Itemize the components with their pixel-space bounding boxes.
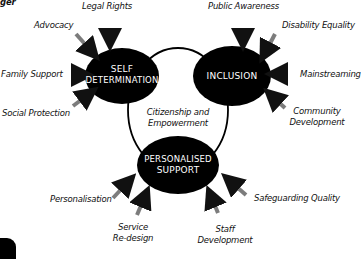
label-community-development: Community Development <box>282 106 352 128</box>
label-mainstreaming: Mainstreaming <box>300 69 361 80</box>
self-determination-line2: DETERMINATION <box>85 75 159 86</box>
label-community: Community <box>282 106 352 117</box>
center-label: Citizenship and Empowerment <box>140 107 216 129</box>
personalised-support-label: PERSONALISED SUPPORT <box>137 154 219 176</box>
label-advocacy: Advocacy <box>34 20 73 31</box>
center-label-line2: Empowerment <box>140 118 216 129</box>
label-redesign: Re-design <box>108 233 158 244</box>
label-legal-rights: Legal Rights <box>82 1 132 12</box>
label-family-support: Family Support <box>1 69 63 80</box>
label-development: Development <box>282 117 352 128</box>
personalised-support-line2: SUPPORT <box>137 165 219 176</box>
label-service-redesign: Service Re-design <box>108 222 158 244</box>
center-label-line1: Citizenship and <box>140 107 216 118</box>
inclusion-label: INCLUSION <box>193 71 271 82</box>
label-social-protection: Social Protection <box>2 108 70 119</box>
label-disability-equality: Disability Equality <box>282 20 355 31</box>
label-staff: Staff <box>195 224 255 235</box>
label-personalisation: Personalisation <box>50 194 112 205</box>
label-staff-development: Staff Development <box>195 224 255 246</box>
label-public-awareness: Public Awareness <box>208 1 279 12</box>
label-staff-development-line2: Development <box>195 235 255 246</box>
label-service: Service <box>108 222 158 233</box>
corner-shape <box>0 238 16 259</box>
label-safeguarding-quality: Safeguarding Quality <box>254 193 340 204</box>
self-determination-label: SELF DETERMINATION <box>85 64 159 86</box>
personalised-support-line1: PERSONALISED <box>137 154 219 165</box>
top-left-fragment: ger <box>0 0 15 8</box>
self-determination-line1: SELF <box>85 64 159 75</box>
